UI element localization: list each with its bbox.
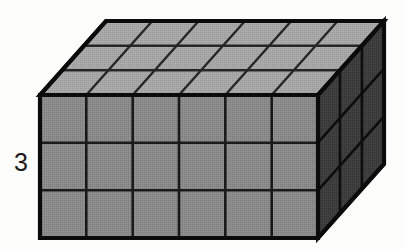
figure-canvas: 3 <box>0 0 405 250</box>
rectangular-prism-illustration <box>0 0 405 250</box>
height-dimension-label: 3 <box>9 150 33 175</box>
